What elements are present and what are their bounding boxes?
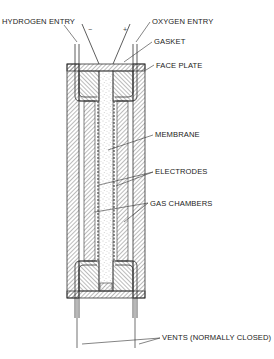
label-hydrogen-entry: HYDROGEN ENTRY [2,17,75,26]
fuel-cell-diagram: − + HYDROGEN ENTRY OXYGEN ENTRY GASKET F… [0,0,274,359]
label-gas-chambers: GAS CHAMBERS [150,199,212,208]
membrane [99,71,113,291]
positive-terminal-sign: + [123,26,127,33]
face-plate-right [133,64,145,298]
label-electrodes: ELECTRODES [155,167,207,176]
face-plate-left [67,64,79,298]
negative-terminal-sign: − [88,26,92,33]
label-oxygen-entry: OXYGEN ENTRY [152,17,213,26]
label-vents: VENTS (NORMALLY CLOSED) [162,333,272,342]
label-face-plate: FACE PLATE [156,61,202,70]
label-gasket: GASKET [154,37,186,46]
label-membrane: MEMBRANE [155,130,200,139]
